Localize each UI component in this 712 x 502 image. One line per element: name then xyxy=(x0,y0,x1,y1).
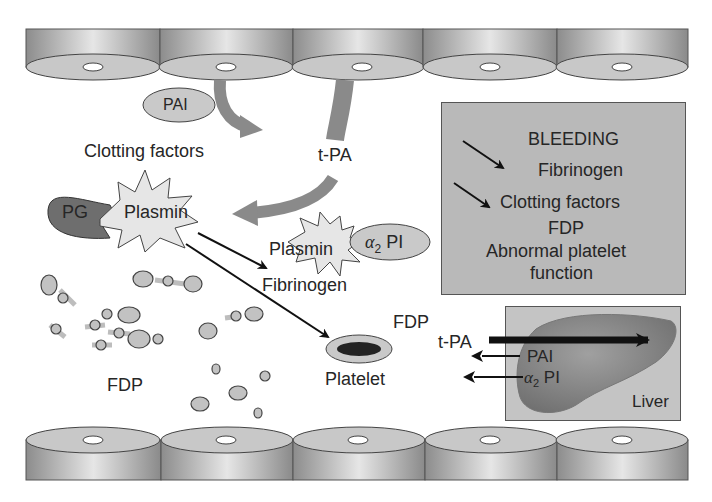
tpa-arrowhead-icon xyxy=(232,200,258,226)
bottom-endothelium xyxy=(26,427,688,480)
plasmin-to-fibrinogen-arrow xyxy=(198,233,266,268)
bleeding-item-function: function xyxy=(530,264,593,282)
top-cell-5 xyxy=(556,29,688,80)
bleeding-item-clotting-factors: Clotting factors xyxy=(500,193,620,211)
top-cell-4 xyxy=(423,29,557,80)
clotting-factors-label: Clotting factors xyxy=(84,142,204,160)
bottom-cell-5 xyxy=(556,427,688,480)
bleeding-item-abnormal-platelet: Abnormal platelet xyxy=(486,242,626,260)
tpa-to-plasmin-arrow xyxy=(250,178,333,213)
tpa-release-arrow xyxy=(335,80,345,140)
bleeding-item-fdp: FDP xyxy=(548,219,584,237)
bottom-cell-4 xyxy=(425,427,557,480)
clotting-decrease-arrow-icon xyxy=(454,183,489,207)
top-cell-2 xyxy=(159,29,293,80)
fdp-left-label: FDP xyxy=(107,376,143,394)
liver-label: Liver xyxy=(632,393,669,410)
fdp-fragments xyxy=(41,271,270,418)
bottom-cell-1 xyxy=(26,427,161,480)
pai-label: PAI xyxy=(163,97,188,113)
tpa-label: t-PA xyxy=(318,146,352,164)
bleeding-box: BLEEDING Fibrinogen Clotting factors FDP… xyxy=(441,102,686,295)
plasmin-label: Plasmin xyxy=(124,203,188,221)
tpa-liver-label: t-PA xyxy=(438,333,472,351)
platelet-label: Platelet xyxy=(325,370,385,388)
bleeding-title: BLEEDING xyxy=(528,130,619,148)
fdp-right-label: FDP xyxy=(393,313,429,331)
pg-label: PG xyxy=(62,203,88,221)
bleeding-item-fibrinogen: Fibrinogen xyxy=(538,161,623,179)
pai-arrowhead-icon xyxy=(240,115,263,138)
top-cell-3 xyxy=(292,29,424,80)
bottom-cell-3 xyxy=(293,427,425,480)
fibrinogen-label: Fibrinogen xyxy=(262,276,347,294)
platelet-inner xyxy=(337,342,381,356)
plasmin-complex-label: Plasmin xyxy=(269,240,333,258)
bottom-cell-2 xyxy=(161,427,293,480)
alpha2-pi-label: α2 PI xyxy=(365,233,403,255)
fibrinolysis-diagram: PAI Clotting factors t-PA PG Plasmin Pla… xyxy=(0,0,712,502)
alpha2-pi-liver-label: α2 PI xyxy=(524,369,560,389)
top-endothelium xyxy=(26,29,688,80)
pai-liver-label: PAI xyxy=(527,348,553,365)
fibrinogen-decrease-arrow-icon xyxy=(463,141,503,168)
top-cell-1 xyxy=(26,29,160,80)
